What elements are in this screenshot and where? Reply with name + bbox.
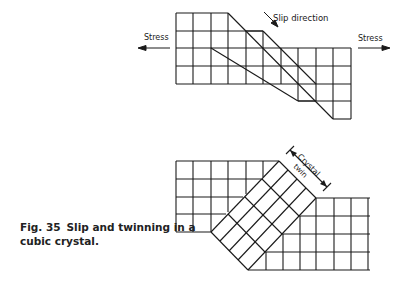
slip-direction-label: Slip direction: [273, 13, 328, 23]
slip-diagram: [176, 13, 351, 119]
figure-number: Fig. 35: [20, 221, 61, 233]
stress-right-label: Stress: [358, 34, 383, 43]
twinning-diagram: [176, 146, 370, 270]
stress-left-label: Stress: [144, 33, 169, 42]
caption-line-1: Slip and twinning in a: [67, 221, 196, 233]
figure-caption: Fig. 35Slip and twinning in a cubic crys…: [20, 220, 196, 248]
caption-line-2: cubic crystal.: [20, 234, 196, 248]
